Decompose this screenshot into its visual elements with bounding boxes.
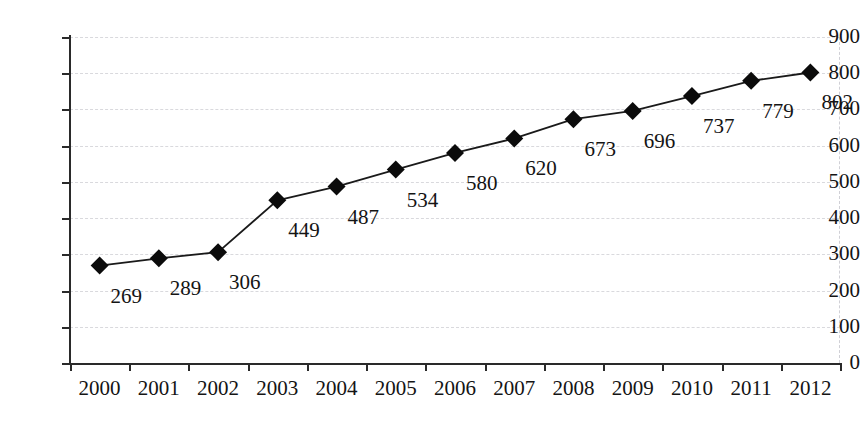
x-axis-tick bbox=[840, 363, 842, 371]
x-axis-tick-label: 2003 bbox=[248, 378, 307, 399]
x-axis-tick bbox=[544, 363, 546, 371]
y-axis-tick-label: 900 bbox=[804, 26, 860, 47]
data-point-label: 580 bbox=[466, 173, 498, 194]
data-point-label: 620 bbox=[525, 158, 557, 179]
gridline bbox=[70, 254, 840, 255]
data-point-label: 779 bbox=[762, 101, 794, 122]
data-point-label: 696 bbox=[644, 131, 676, 152]
x-axis-tick bbox=[188, 363, 190, 371]
y-axis-tick-label: 300 bbox=[804, 243, 860, 264]
x-axis-tick-label: 2012 bbox=[781, 378, 840, 399]
data-point-label: 306 bbox=[229, 272, 261, 293]
data-point-label: 802 bbox=[821, 92, 853, 113]
x-axis-tick bbox=[425, 363, 427, 371]
x-axis-tick bbox=[248, 363, 250, 371]
gridline bbox=[70, 146, 840, 147]
x-axis-tick bbox=[662, 363, 664, 371]
data-point-label: 269 bbox=[111, 286, 143, 307]
x-axis-line bbox=[69, 363, 841, 365]
x-axis-tick-label: 2008 bbox=[544, 378, 603, 399]
y-axis-line bbox=[69, 35, 71, 365]
gridline bbox=[70, 327, 840, 328]
x-axis-tick bbox=[781, 363, 783, 371]
x-axis-tick-label: 2007 bbox=[485, 378, 544, 399]
x-axis-tick bbox=[366, 363, 368, 371]
x-axis-tick-label: 2009 bbox=[603, 378, 662, 399]
plot-area bbox=[70, 37, 840, 363]
line-chart: 0100200300400500600700800900 20002001200… bbox=[0, 0, 860, 436]
x-axis-tick bbox=[603, 363, 605, 371]
x-axis-tick-label: 2011 bbox=[722, 378, 781, 399]
y-axis-tick-label: 600 bbox=[804, 135, 860, 156]
x-axis-tick bbox=[129, 363, 131, 371]
data-point-label: 534 bbox=[407, 190, 439, 211]
gridline bbox=[70, 218, 840, 219]
x-axis-tick-label: 2005 bbox=[366, 378, 425, 399]
x-axis-tick bbox=[722, 363, 724, 371]
y-axis-tick-label: 800 bbox=[804, 62, 860, 83]
gridline bbox=[70, 73, 840, 74]
data-point-label: 449 bbox=[288, 220, 320, 241]
gridline bbox=[70, 182, 840, 183]
x-axis-tick bbox=[70, 363, 72, 371]
gridline bbox=[70, 37, 840, 38]
x-axis-tick bbox=[485, 363, 487, 371]
data-point-label: 289 bbox=[170, 278, 202, 299]
x-axis-tick-label: 2006 bbox=[425, 378, 484, 399]
data-point-label: 487 bbox=[348, 207, 380, 228]
x-axis-tick-label: 2010 bbox=[662, 378, 721, 399]
data-point-label: 737 bbox=[703, 116, 735, 137]
y-axis-tick-label: 500 bbox=[804, 171, 860, 192]
x-axis-tick bbox=[307, 363, 309, 371]
y-axis-tick-label: 400 bbox=[804, 207, 860, 228]
gridline bbox=[70, 109, 840, 110]
data-point-label: 673 bbox=[584, 139, 616, 160]
x-axis-tick-label: 2002 bbox=[188, 378, 247, 399]
y-axis-tick-label: 200 bbox=[804, 280, 860, 301]
x-axis-tick-label: 2000 bbox=[70, 378, 129, 399]
y-axis-tick-label: 100 bbox=[804, 316, 860, 337]
x-axis-tick-label: 2001 bbox=[129, 378, 188, 399]
x-axis-tick-label: 2004 bbox=[307, 378, 366, 399]
